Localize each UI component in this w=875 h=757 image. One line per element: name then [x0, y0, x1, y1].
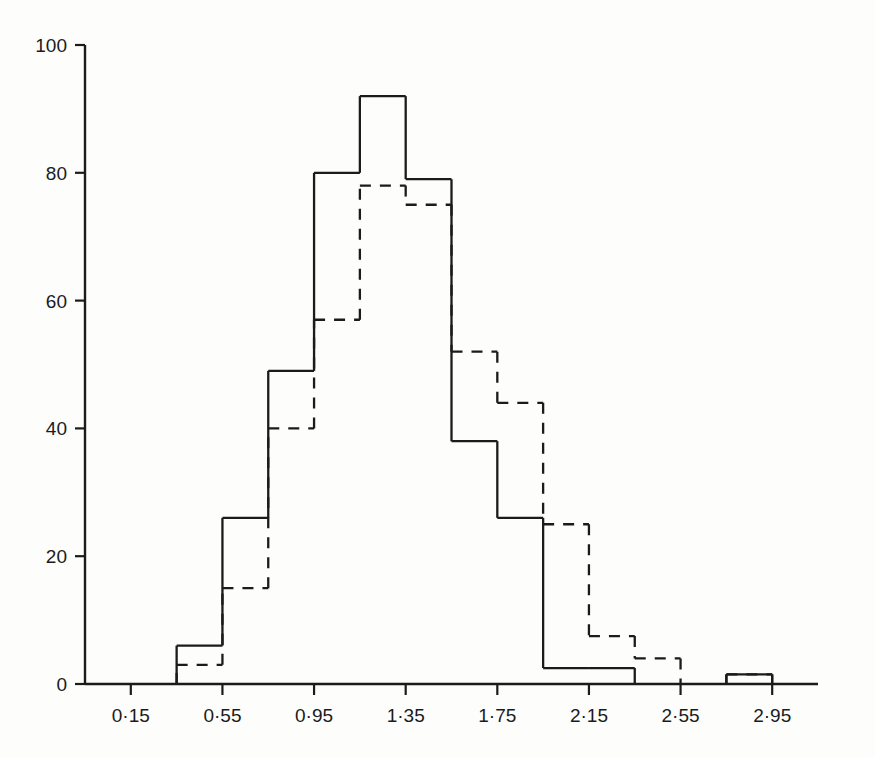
chart-canvas: 020406080100 0·150·550·951·351·752·152·5…	[0, 0, 875, 757]
y-tick-label-80: 80	[46, 163, 67, 184]
y-tick-label-40: 40	[46, 418, 67, 439]
x-tick-label-0·95: 0·95	[295, 705, 333, 726]
y-tick-label-0: 0	[56, 674, 67, 695]
x-tick-label-1·75: 1·75	[478, 705, 516, 726]
y-tick-label-100: 100	[35, 35, 67, 56]
chart-background	[0, 0, 875, 757]
x-tick-label-1·35: 1·35	[387, 705, 425, 726]
x-tick-label-2·15: 2·15	[570, 705, 608, 726]
x-tick-label-2·55: 2·55	[662, 705, 700, 726]
y-tick-label-60: 60	[46, 291, 67, 312]
x-tick-label-2·95: 2·95	[753, 705, 791, 726]
x-tick-label-0·15: 0·15	[112, 705, 150, 726]
histogram-chart: 020406080100 0·150·550·951·351·752·152·5…	[0, 0, 875, 757]
y-tick-label-20: 20	[46, 546, 67, 567]
x-tick-label-0·55: 0·55	[203, 705, 241, 726]
